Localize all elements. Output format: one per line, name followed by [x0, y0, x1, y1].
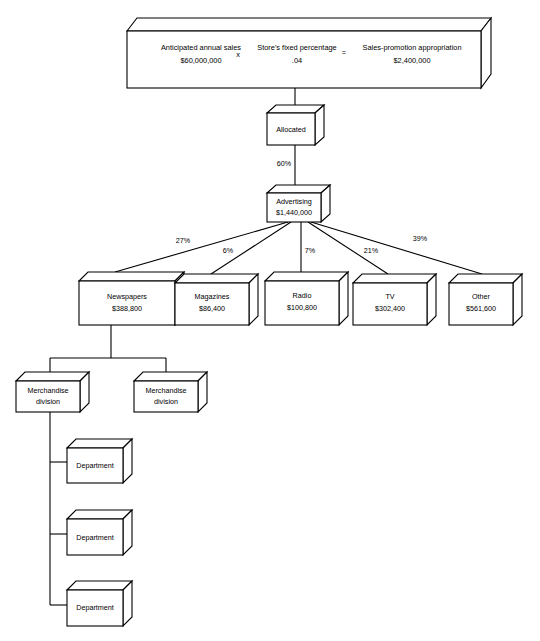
department-1-label: Department [76, 461, 114, 470]
other-box-top-face [449, 274, 522, 283]
pct-magazines: 6% [223, 246, 234, 255]
formula-term-3-value: $2,400,000 [394, 56, 431, 65]
formula-term-2-label: Store's fixed percentage [257, 43, 336, 52]
tv-box-top-face [353, 274, 436, 283]
formula-box: Anticipated annual sales $60,000,000 x S… [127, 18, 491, 88]
radio-box-value: $100,800 [287, 303, 317, 312]
connector-newspapers-to-divisions [50, 325, 166, 372]
magazines-box-top-face [175, 274, 258, 283]
media-box-magazines: Magazines $86,400 [175, 274, 258, 325]
formula-operator-equals: = [342, 48, 346, 57]
diagram-canvas: Anticipated annual sales $60,000,000 x S… [0, 0, 540, 641]
pct-other: 39% [413, 234, 428, 243]
radio-box-top-face [265, 272, 348, 281]
other-box-label: Other [472, 292, 491, 301]
advertising-box-label: Advertising [276, 197, 312, 206]
other-box-side-face [513, 274, 522, 325]
formula-term-1-label: Anticipated annual sales [161, 43, 241, 52]
tv-box-label: TV [385, 292, 394, 301]
department-1-top-face [67, 439, 132, 448]
division-right-label-line1: Merchandise [145, 386, 186, 395]
connector-advertising-to-other [311, 222, 482, 274]
tv-box-side-face [427, 274, 436, 325]
formula-term-3-label: Sales-promotion appropriation [362, 43, 461, 52]
formula-box-top-face [127, 18, 491, 31]
department-box-2: Department [67, 510, 132, 555]
connector-advertising-to-newspapers [115, 222, 288, 272]
department-2-top-face [67, 510, 132, 519]
radio-box-label: Radio [293, 291, 312, 300]
media-box-tv: TV $302,400 [353, 274, 436, 325]
division-right-label-line2: division [154, 397, 178, 406]
appropriation-flow-diagram: Anticipated annual sales $60,000,000 x S… [0, 0, 540, 641]
formula-term-2-value: .04 [292, 56, 302, 65]
allocated-box: Allocated [267, 105, 324, 145]
pct-tv: 21% [364, 246, 379, 255]
pct-newspapers: 27% [176, 236, 191, 245]
formula-box-side-face [481, 18, 491, 88]
department-2-label: Department [76, 533, 114, 542]
formula-operator-multiply: x [236, 50, 240, 59]
advertising-box-value: $1,440,000 [276, 208, 312, 217]
division-left-label-line2: division [36, 397, 60, 406]
media-box-radio: Radio $100,800 [265, 272, 348, 325]
allocated-box-top-face [267, 105, 324, 113]
media-box-newspapers: Newspapers $388,800 [79, 272, 184, 325]
department-3-label: Department [76, 603, 114, 612]
formula-term-1-value: $60,000,000 [180, 56, 221, 65]
advertising-box: Advertising $1,440,000 [267, 185, 330, 222]
media-box-other: Other $561,600 [449, 274, 522, 325]
department-box-3: Department [67, 581, 132, 626]
division-box-right: Merchandise division [134, 372, 207, 412]
department-box-1: Department [67, 439, 132, 483]
magazines-box-side-face [249, 274, 258, 325]
advertising-box-top-face [267, 185, 330, 193]
pct-radio: 7% [305, 246, 316, 255]
magazines-box-value: $86,400 [199, 304, 225, 313]
newspapers-box-value: $388,800 [112, 304, 142, 313]
division-box-left: Merchandise division [16, 372, 89, 412]
newspapers-box-label: Newspapers [107, 292, 147, 301]
newspapers-box-top-face [79, 272, 184, 281]
division-left-top-face [16, 372, 89, 381]
allocated-box-label: Allocated [276, 125, 306, 134]
division-left-label-line1: Merchandise [27, 386, 68, 395]
division-right-top-face [134, 372, 207, 381]
department-3-top-face [67, 581, 132, 590]
pct-allocated-to-advertising: 60% [277, 159, 292, 168]
magazines-box-label: Magazines [195, 292, 230, 301]
other-box-value: $561,600 [466, 304, 496, 313]
radio-box-side-face [339, 272, 348, 325]
tv-box-value: $302,400 [375, 304, 405, 313]
